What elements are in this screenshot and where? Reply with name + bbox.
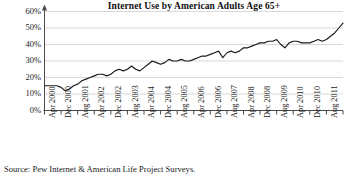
x-tick-label: Apr 2010: [296, 86, 305, 118]
x-tick-label: Apr 2002: [97, 86, 106, 118]
x-tick-label: Aug 2009: [280, 85, 289, 118]
x-tick-label: Aug 2005: [180, 85, 189, 118]
x-tick-label: Apr 2008: [247, 86, 256, 118]
x-tick-label: Apr 2000: [48, 86, 57, 118]
x-tick-label: Dec 2000: [64, 85, 73, 117]
chart-figure: Internet Use by American Adults Age 65+ …: [0, 0, 346, 179]
x-tick-label: Dec 2006: [214, 85, 223, 117]
x-tick-label: Aug 2003: [131, 85, 140, 118]
x-tick-label: Apr 2004: [147, 86, 156, 118]
x-tick-label: Aug 2001: [81, 85, 90, 118]
x-tick-label: Apr 2006: [197, 86, 206, 118]
x-tick-label: Aug 2007: [230, 85, 239, 118]
x-axis-tick-labels: Apr 2000Dec 2000Aug 2001Apr 2002Dec 2002…: [0, 0, 346, 179]
source-note: Source: Pew Internet & American Life Pro…: [4, 164, 195, 174]
x-tick-label: Aug 2011: [330, 85, 339, 118]
x-tick-label: Dec 2008: [263, 85, 272, 117]
x-tick-label: Dec 2002: [114, 85, 123, 117]
x-tick-label: Dec 2010: [313, 85, 322, 117]
x-tick-label: Dec 2004: [164, 85, 173, 117]
